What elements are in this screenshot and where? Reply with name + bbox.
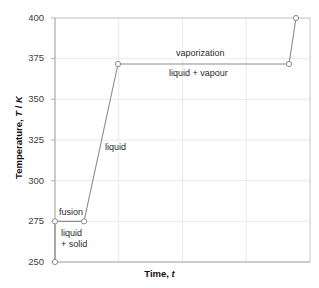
data-point — [52, 259, 57, 264]
annotation-fusion: fusion — [58, 207, 84, 218]
y-tick-marks — [51, 18, 55, 262]
y-tick-label-250: 250 — [10, 257, 44, 267]
x-axis-title: Time, t — [0, 268, 319, 279]
annotation-vaporization: vaporization — [175, 48, 226, 59]
x-axis-title-prefix: Time, — [144, 268, 169, 279]
y-tick-label-275: 275 — [10, 216, 44, 226]
y-axis-title-symbol-t: T — [13, 111, 24, 117]
heating-curve-chart: 400 375 350 325 300 275 250 Temperature,… — [0, 0, 319, 288]
data-point — [52, 219, 57, 224]
data-point — [81, 219, 86, 224]
x-axis-title-symbol: t — [172, 268, 175, 279]
y-axis-title-prefix: Temperature, — [13, 119, 24, 178]
y-axis-title-separator: / — [13, 106, 24, 109]
annotation-liquid: liquid — [104, 142, 127, 153]
annotation-liquid-solid-line1: liquid — [61, 228, 87, 239]
y-axis-title: Temperature, T / K — [13, 68, 24, 208]
data-point — [293, 15, 298, 20]
data-point — [115, 61, 120, 66]
chart-canvas — [0, 0, 319, 288]
data-point — [286, 61, 291, 66]
annotation-liquid-solid: liquid + solid — [60, 228, 88, 250]
annotation-liquid-vapour: liquid + vapour — [168, 68, 229, 79]
y-axis-title-symbol-k: K — [13, 96, 24, 103]
annotation-liquid-solid-line2: + solid — [61, 239, 87, 250]
y-tick-label-375: 375 — [10, 53, 44, 63]
y-tick-label-400: 400 — [10, 13, 44, 23]
